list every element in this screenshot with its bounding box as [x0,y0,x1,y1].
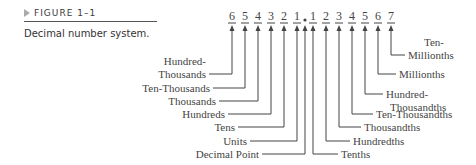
digit-left: 5 [242,9,248,23]
place-label-right: Ten- [424,36,444,48]
digit-right: 5 [362,9,368,23]
place-label-right: Tenths [341,148,370,160]
digit-right: 4 [349,9,355,23]
digit-left: 6 [229,9,235,23]
connector-line [391,30,405,55]
place-label-left: Decimal Point [196,148,259,160]
connector-line [378,30,396,74]
connector-line [213,30,245,88]
place-label-left: Hundred- [164,55,206,67]
connector-line [326,30,350,141]
decimal-point-dot [303,18,306,21]
place-label-right: Millionths [408,49,454,61]
place-label-right: Hundred- [386,88,428,100]
connector-line [352,30,373,114]
digit-left: 3 [268,9,274,23]
digit-right: 1 [310,9,316,23]
connector-line [339,30,361,127]
place-label-right: Thousandths [364,121,420,133]
place-label-left: Thousands [158,68,206,80]
connector-line [209,30,232,74]
digit-left: 1 [294,9,300,23]
digit-left: 4 [255,9,261,23]
connector-line [219,30,258,101]
place-label-left: Thousands [168,95,216,107]
place-label-left: Ten-Thousands [142,82,210,94]
connector-line [250,30,297,141]
place-label-left: Tens [214,121,235,133]
digit-row: 6543211234567 [228,9,395,31]
digit-left: 2 [281,9,287,23]
digit-right: 7 [388,9,394,23]
place-labels: Hundred-ThousandsTen-ThousandsThousandsH… [142,36,454,160]
digit-right: 3 [336,9,342,23]
digit-right: 6 [375,9,381,23]
place-label-right: Hundredths [353,135,404,147]
place-label-left: Hundreds [182,108,225,120]
decimal-place-value-diagram: 6543211234567 Hundred-ThousandsTen-Thous… [0,0,476,165]
place-label-right: Millionths [399,68,445,80]
digit-right: 2 [323,9,329,23]
place-label-left: Units [223,135,247,147]
place-label-right: Thousandths [390,101,446,113]
connector-line [365,30,383,94]
